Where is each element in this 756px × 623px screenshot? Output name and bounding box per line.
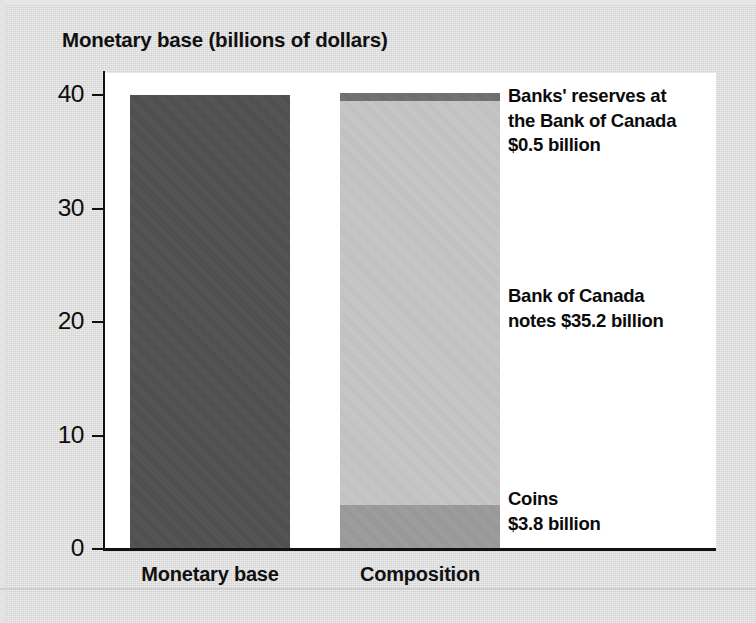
- bar-segment-coins: [340, 505, 500, 549]
- bar-segment-reserves: [340, 93, 500, 101]
- annotation-bank-notes: Bank of Canada notes $35.2 billion: [508, 284, 708, 333]
- bottom-rule: [0, 588, 756, 590]
- chart-title: Monetary base (billions of dollars): [62, 28, 388, 52]
- y-tick-label-0: 0: [18, 534, 84, 562]
- y-tick-10: [92, 435, 105, 437]
- y-tick-label-20: 20: [18, 307, 84, 335]
- chart-figure: Monetary base (billions of dollars) 40 3…: [0, 0, 756, 623]
- y-tick-label-30: 30: [18, 194, 84, 222]
- bar-texture: [340, 101, 500, 505]
- x-axis-line: [103, 548, 716, 551]
- bar-monetary-base: [130, 95, 290, 549]
- bar-texture: [130, 95, 290, 549]
- y-tick-label-10: 10: [18, 421, 84, 449]
- y-tick-40: [92, 94, 105, 96]
- annotation-coins: Coins $3.8 billion: [508, 487, 708, 536]
- y-tick-label-40: 40: [18, 80, 84, 108]
- y-tick-20: [92, 321, 105, 323]
- annotation-banks-reserves: Banks' reserves at the Bank of Canada $0…: [508, 84, 708, 158]
- y-axis-line: [103, 71, 105, 550]
- bar-texture: [340, 505, 500, 549]
- bar-texture: [340, 93, 500, 101]
- y-tick-30: [92, 208, 105, 210]
- x-label-composition: Composition: [340, 563, 500, 586]
- scan-edge-top: [0, 0, 756, 5]
- bar-segment-notes: [340, 101, 500, 505]
- scan-edge-left: [0, 0, 5, 623]
- x-label-monetary-base: Monetary base: [130, 563, 290, 586]
- y-tick-0: [92, 548, 105, 550]
